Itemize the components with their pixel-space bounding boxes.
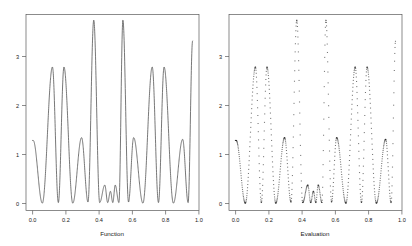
x-tick-label-3: 0.6 — [332, 217, 340, 223]
x-axis-title: Function — [100, 230, 124, 237]
y-tick-label-0: 0 — [16, 201, 19, 207]
x-axis-ticks — [236, 211, 402, 215]
evaluation-panel: 0 1 2 3 0.0 0.2 0.4 0.6 0.8 1.0 — [206, 0, 412, 246]
y-axis-ticks — [225, 57, 229, 204]
evaluation-points — [235, 20, 396, 203]
x-axis-ticks — [33, 211, 199, 215]
function-plot-svg: 0 1 2 3 0.0 0.2 0.4 0.6 0.8 1.0 — [0, 0, 206, 246]
x-tick-label-3: 0.6 — [129, 217, 137, 223]
y-tick-label-3: 3 — [219, 54, 222, 60]
x-tick-label-2: 0.4 — [95, 217, 103, 223]
y-tick-label-2: 2 — [16, 103, 19, 109]
y-tick-label-0: 0 — [219, 201, 222, 207]
x-axis-title: Evaluation — [301, 230, 330, 237]
y-axis-ticks — [22, 57, 26, 204]
x-tick-label-0: 0.0 — [232, 217, 240, 223]
plot-frame — [229, 15, 402, 211]
x-tick-label-2: 0.4 — [298, 217, 306, 223]
x-axis-tick-labels: 0.0 0.2 0.4 0.6 0.8 1.0 — [232, 217, 406, 223]
x-tick-label-4: 0.8 — [162, 217, 170, 223]
function-curve — [32, 20, 192, 203]
y-tick-label-2: 2 — [219, 103, 222, 109]
function-panel: 0 1 2 3 0.0 0.2 0.4 0.6 0.8 1.0 — [0, 0, 206, 246]
y-tick-label-1: 1 — [16, 152, 19, 158]
plot-frame — [26, 15, 199, 211]
two-panel-figure: 0 1 2 3 0.0 0.2 0.4 0.6 0.8 1.0 — [0, 0, 412, 246]
y-tick-label-1: 1 — [219, 152, 222, 158]
x-tick-label-0: 0.0 — [29, 217, 37, 223]
x-tick-label-1: 0.2 — [265, 217, 273, 223]
x-tick-label-4: 0.8 — [365, 217, 373, 223]
y-tick-label-3: 3 — [16, 54, 19, 60]
x-tick-label-1: 0.2 — [62, 217, 70, 223]
y-axis-tick-labels: 0 1 2 3 — [219, 54, 222, 207]
x-axis-tick-labels: 0.0 0.2 0.4 0.6 0.8 1.0 — [29, 217, 203, 223]
x-tick-label-5: 1.0 — [398, 217, 406, 223]
y-axis-tick-labels: 0 1 2 3 — [16, 54, 19, 207]
x-tick-label-5: 1.0 — [195, 217, 203, 223]
evaluation-plot-svg: 0 1 2 3 0.0 0.2 0.4 0.6 0.8 1.0 — [206, 0, 412, 246]
